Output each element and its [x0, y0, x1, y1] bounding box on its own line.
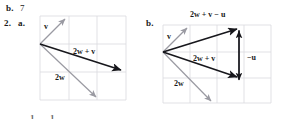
- figure-b-container: [0, 0, 302, 119]
- figure-b-label-2w: 2w: [174, 80, 184, 88]
- figure-b-label-minus-u: −u: [247, 54, 256, 62]
- worksheet-page: b. 7 2. a. b.: [0, 0, 302, 119]
- figure-b-svg: [0, 0, 302, 119]
- footer-fragment-right: 1: [50, 113, 55, 119]
- grid-b: [163, 25, 271, 103]
- figure-b-label-2w-plus-v: 2w + v: [193, 55, 215, 63]
- footer-fragment-left: 1: [30, 113, 35, 119]
- figure-b-label-2w-plus-v-minus-u: 2w + v − u: [190, 11, 225, 19]
- figure-b-label-v: v: [167, 33, 171, 41]
